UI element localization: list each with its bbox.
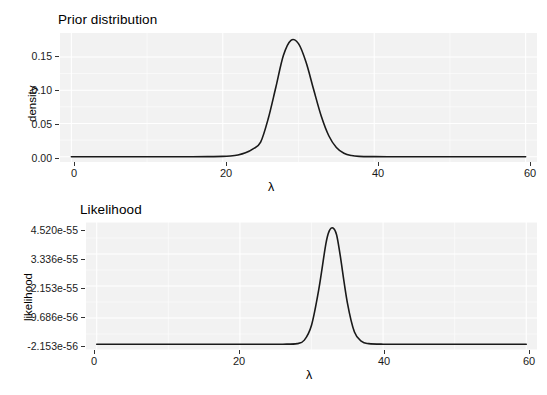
y-tick-label-likelihood-4: 4.520e-55	[4, 224, 78, 236]
y-tick-label-prior-3: 0.15	[8, 50, 52, 62]
x-tick-label-prior-2: 40	[372, 167, 384, 179]
x-tick-label-likelihood-2: 40	[378, 355, 390, 367]
y-tick-label-prior-2: 0.10	[8, 84, 52, 96]
y-tick-label-prior-0: 0.00	[8, 152, 52, 164]
x-axis-title-prior: λ	[268, 180, 274, 194]
y-tick-label-likelihood-3: 3.336e-55	[4, 253, 78, 265]
x-axis-title-likelihood: λ	[306, 368, 312, 382]
y-tick-mark-likelihood-2	[81, 288, 85, 289]
plot-panel-prior	[60, 33, 537, 162]
x-tick-mark-likelihood-0	[94, 350, 95, 354]
y-tick-mark-prior-3	[55, 56, 59, 57]
y-tick-mark-prior-1	[55, 124, 59, 125]
x-tick-mark-prior-2	[378, 162, 379, 166]
x-tick-mark-likelihood-1	[239, 350, 240, 354]
chart-title-prior: Prior distribution	[58, 12, 157, 27]
y-tick-label-likelihood-1: 9.686e-56	[4, 311, 78, 323]
gridlines-likelihood	[86, 222, 537, 350]
x-tick-label-prior-1: 20	[220, 167, 232, 179]
y-tick-label-likelihood-2: 2.153e-55	[4, 282, 78, 294]
chart-title-likelihood: Likelihood	[80, 202, 142, 217]
x-tick-mark-prior-3	[530, 162, 531, 166]
chart-likelihood: Likelihood likelihood -2.153e-56 9.686e-…	[0, 197, 547, 395]
x-tick-label-likelihood-1: 20	[233, 355, 245, 367]
x-tick-label-likelihood-0: 0	[91, 355, 97, 367]
plot-area-prior	[60, 33, 537, 162]
y-tick-mark-likelihood-3	[81, 259, 85, 260]
x-tick-label-likelihood-3: 60	[523, 355, 535, 367]
chart-prior-distribution: Prior distribution density 0.00 0.05 0.1…	[0, 0, 547, 198]
y-tick-label-prior-1: 0.05	[8, 118, 52, 130]
plot-panel-likelihood	[86, 222, 537, 350]
y-tick-mark-likelihood-4	[81, 230, 85, 231]
y-tick-mark-likelihood-1	[81, 317, 85, 318]
x-tick-mark-likelihood-2	[384, 350, 385, 354]
x-tick-mark-prior-0	[74, 162, 75, 166]
x-tick-label-prior-0: 0	[71, 167, 77, 179]
plot-area-likelihood	[86, 222, 537, 350]
x-tick-mark-prior-1	[226, 162, 227, 166]
y-tick-mark-likelihood-0	[81, 346, 85, 347]
y-tick-label-likelihood-0: -2.153e-56	[4, 340, 78, 352]
x-tick-mark-likelihood-3	[529, 350, 530, 354]
figure-container: Prior distribution density 0.00 0.05 0.1…	[0, 0, 547, 395]
y-tick-mark-prior-2	[55, 90, 59, 91]
y-tick-mark-prior-0	[55, 158, 59, 159]
x-tick-label-prior-3: 60	[524, 167, 536, 179]
gridlines-prior	[60, 33, 537, 162]
